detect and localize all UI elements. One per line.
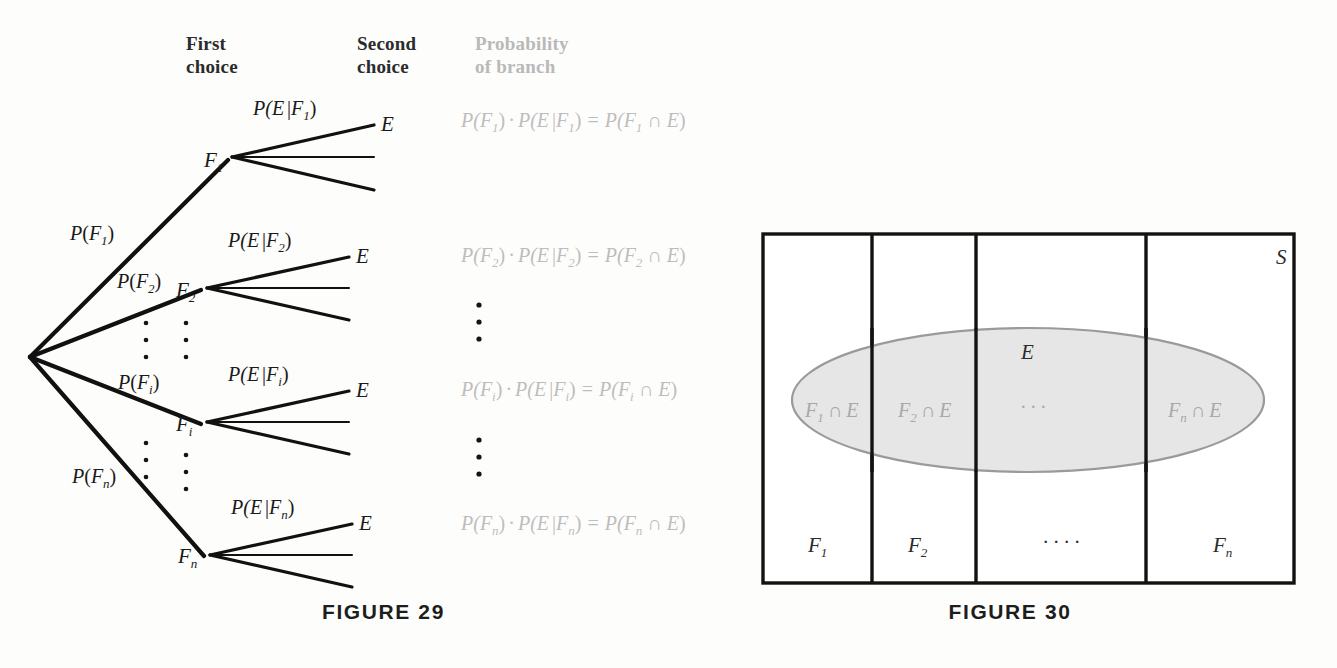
- fan-F1-upper: [232, 125, 374, 157]
- header-second-choice-line2: choice: [357, 56, 409, 77]
- second-choice-fan-F2: [207, 257, 349, 320]
- outcome-label-E-4: E: [358, 511, 372, 535]
- second-choice-fan-Fn: [210, 524, 352, 587]
- partition-label-ellipsis: · · · ·: [1043, 530, 1080, 554]
- vertical-ellipsis-equation-col-2: [476, 437, 481, 476]
- outcome-labels: E E E E: [355, 112, 394, 535]
- vertical-ellipsis-first-col-1: [144, 321, 149, 360]
- node-label-F1: F1: [203, 148, 223, 175]
- header-first-choice-line2: choice: [186, 56, 238, 77]
- sample-space-label-S: S: [1276, 245, 1287, 269]
- outcome-label-E-2: E: [355, 244, 369, 268]
- intersection-label-ellipsis: · · ·: [1021, 396, 1046, 418]
- vertical-ellipsis-equation-col-1: [476, 302, 481, 341]
- fan-Fn-upper: [210, 524, 352, 555]
- branch-probability-equations: P(F1)·P(E|F1)=P(F1∩E) P(F2)·P(E|F2)=P(F2…: [460, 109, 686, 538]
- event-label-E: E: [1020, 340, 1034, 364]
- vertical-ellipsis-node-col-2: [184, 453, 189, 492]
- outcome-label-E-1: E: [380, 112, 394, 136]
- figure-29-column-headers: First choice Second choice Probability o…: [186, 33, 569, 77]
- branch-probability-row-3: P(Fi)·P(E|Fi)=P(Fi∩E): [460, 378, 677, 404]
- branch-root-to-Fn: [30, 357, 204, 556]
- branch-probability-row-1: P(F1)·P(E|F1)=P(F1∩E): [460, 109, 686, 135]
- header-first-choice-line1: First: [186, 33, 227, 54]
- fan-F2-lower: [207, 288, 349, 320]
- second-choice-fan-Fi: [207, 391, 349, 454]
- first-choice-branches: [30, 160, 228, 556]
- fan-F2-upper: [207, 257, 349, 288]
- vertical-ellipsis-first-col-2: [144, 441, 149, 480]
- node-label-Fi: Fi: [175, 412, 193, 439]
- figure-canvas: First choice Second choice Probability o…: [0, 0, 1337, 668]
- fan-Fi-lower: [207, 422, 349, 454]
- label-P-E-given-Fn: P(E|Fn): [230, 496, 295, 522]
- branch-probability-row-2: P(F2)·P(E|F2)=P(F2∩E): [460, 244, 686, 270]
- first-choice-node-labels: F1 F2 Fi Fn: [175, 148, 223, 571]
- vertical-ellipsis-node-col-1: [184, 321, 189, 360]
- header-probability-line2: of branch: [475, 56, 556, 77]
- branch-probability-row-4: P(Fn)·P(E|Fn)=P(Fn∩E): [460, 512, 686, 538]
- fan-F1-lower: [232, 157, 374, 190]
- fan-Fn-lower: [210, 555, 352, 587]
- label-P-Fn: P(Fn): [71, 465, 116, 491]
- figure-30-group: S E F1∩E F2∩E · · · Fn∩E F1 F2 · · · · F…: [763, 234, 1294, 623]
- combined-figure-svg: First choice Second choice Probability o…: [0, 0, 1337, 668]
- label-P-F2: P(F2): [116, 270, 161, 296]
- label-P-E-given-Fi: P(E|Fi): [227, 363, 289, 389]
- outcome-label-E-3: E: [355, 378, 369, 402]
- figure-30-caption: FIGURE 30: [949, 600, 1072, 623]
- second-choice-fan-F1: [232, 125, 374, 190]
- header-probability-line1: Probability: [475, 33, 569, 54]
- branch-root-to-F1: [30, 160, 228, 357]
- figure-29-caption: FIGURE 29: [322, 600, 445, 623]
- label-P-F1: P(F1): [69, 222, 114, 248]
- figure-29-group: First choice Second choice Probability o…: [30, 33, 686, 623]
- label-P-E-given-F1: P(E|F1): [252, 97, 317, 123]
- fan-Fi-upper: [207, 391, 349, 422]
- node-label-F2: F2: [175, 278, 196, 305]
- label-P-E-given-F2: P(E|F2): [227, 229, 292, 255]
- header-second-choice-line1: Second: [357, 33, 417, 54]
